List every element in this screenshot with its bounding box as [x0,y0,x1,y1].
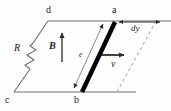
magnetic-field-label-B: B [49,41,56,51]
vertex-label-b: b [74,95,79,105]
velocity-label-v: v [111,59,115,69]
displacement-label-dy: dy [131,24,140,33]
resistor-zigzag [25,43,36,69]
vertex-label-d: d [46,5,51,15]
length-label-e: e [79,51,83,59]
left-edge-upper-segment [33,21,48,43]
vertex-label-a: a [112,5,116,15]
physics-diagram-figure: d a c b R B e v dy [0,0,171,111]
left-edge-lower-segment [14,69,30,92]
conducting-bar [82,22,115,92]
vertex-label-c: c [5,95,9,105]
diagram-canvas [0,0,171,111]
resistor-label-R: R [14,43,20,53]
